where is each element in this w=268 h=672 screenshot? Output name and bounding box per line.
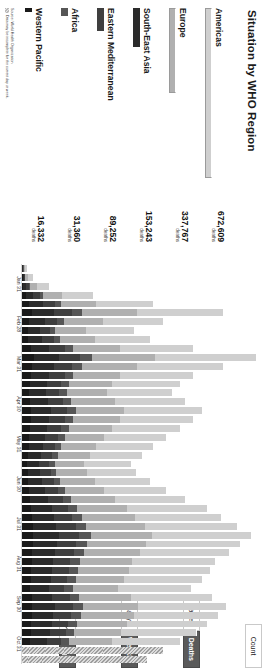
- timeseries-bar[interactable]: [22, 345, 193, 352]
- timeseries-bar[interactable]: [22, 638, 180, 645]
- timeseries-bar[interactable]: [22, 656, 147, 663]
- bar-segment: [29, 487, 46, 494]
- bar-segment: [54, 309, 73, 316]
- timeseries-bar[interactable]: [22, 558, 215, 565]
- timeseries-bar[interactable]: [22, 265, 27, 272]
- timeseries-bar[interactable]: [22, 398, 185, 405]
- bar-segment: [124, 576, 202, 583]
- bar-segment: [52, 567, 70, 574]
- timeseries-bar[interactable]: [22, 505, 207, 512]
- bar-segment: [38, 283, 51, 290]
- bar-segment: [45, 318, 59, 325]
- bar-segment: [30, 638, 48, 645]
- timeseries-bar[interactable]: [22, 594, 212, 601]
- timeseries-bar[interactable]: [22, 523, 237, 530]
- incomplete-data-note: Data may be incomplete for the current d…: [4, 8, 10, 158]
- bar-segment: [53, 612, 72, 619]
- bar-segment: [78, 505, 129, 512]
- timeseries-bar[interactable]: [22, 541, 240, 548]
- bar-segment: [74, 629, 122, 636]
- bar-segment: [78, 567, 130, 574]
- bar-segment: [96, 301, 153, 308]
- timeseries-bar[interactable]: [22, 621, 207, 628]
- timeseries-bar[interactable]: [22, 354, 256, 361]
- bar-segment: [95, 478, 151, 485]
- region-bar-track: [61, 8, 68, 178]
- timeseries-bar[interactable]: [22, 301, 153, 308]
- timeseries-bar[interactable]: [22, 452, 142, 459]
- timeseries-bar[interactable]: [22, 372, 193, 379]
- bar-segment: [73, 585, 120, 592]
- bar-segment: [48, 398, 64, 405]
- bar-segment: [32, 549, 56, 556]
- bar-segment: [56, 523, 76, 530]
- bar-segment: [146, 541, 241, 548]
- hatch-swatch-icon: [6, 8, 10, 13]
- axis-tick-label: Apr 30: [16, 396, 22, 411]
- bar-segment: [45, 487, 59, 494]
- bar-segment: [54, 514, 73, 521]
- bar-segment: [67, 389, 108, 396]
- bar-segment: [73, 345, 120, 352]
- region-bar: [25, 8, 32, 12]
- timeseries-bar[interactable]: [22, 416, 193, 423]
- region-row-americas: Americas 672,609 deaths: [194, 8, 224, 244]
- bar-segment: [47, 425, 62, 432]
- bar-segment: [32, 363, 55, 370]
- timeseries-bar[interactable]: [22, 532, 251, 539]
- timeseries-bar[interactable]: [22, 336, 150, 343]
- timeseries-bar[interactable]: [22, 478, 150, 485]
- timeseries-bar[interactable]: [22, 647, 163, 654]
- bar-segment: [59, 532, 81, 539]
- bar-segment: [29, 301, 44, 308]
- axis-tick-label: Mar 31: [16, 356, 22, 372]
- bar-segment: [61, 443, 97, 450]
- timeseries-bar[interactable]: [22, 434, 166, 441]
- bar-segment: [59, 354, 81, 361]
- region-row-europe: Europe 337,767 deaths: [158, 8, 188, 244]
- timeseries-bar[interactable]: [22, 567, 210, 574]
- timeseries-bar[interactable]: [22, 309, 223, 316]
- timeseries-bar[interactable]: [22, 407, 202, 414]
- bar-segment: [31, 621, 52, 628]
- timeseries-bar[interactable]: [22, 274, 33, 281]
- bar-segment: [127, 621, 208, 628]
- timeseries-bar[interactable]: [22, 443, 153, 450]
- timeseries-bar[interactable]: [22, 363, 223, 370]
- timeseries-bar[interactable]: [22, 629, 196, 636]
- timeseries-bar[interactable]: [22, 425, 180, 432]
- timeseries-bar[interactable]: [22, 549, 229, 556]
- timeseries-bar[interactable]: [22, 487, 166, 494]
- bar-segment: [46, 389, 60, 396]
- region-label: Western Pacific: [34, 8, 44, 72]
- timeseries-bar[interactable]: [22, 461, 131, 468]
- region-row-south-east-asia: South-East Asia 153,243 deaths: [122, 8, 152, 244]
- bar-segment: [80, 558, 133, 565]
- timeseries-bar[interactable]: [22, 327, 134, 334]
- bar-segment: [28, 336, 43, 343]
- bar-segment: [104, 487, 167, 494]
- timeseries-bar[interactable]: [22, 318, 163, 325]
- timeseries-bar[interactable]: [22, 381, 180, 388]
- timeseries-bar[interactable]: [22, 292, 93, 299]
- bar-segment: [69, 638, 113, 645]
- bar-segment: [25, 265, 28, 272]
- bar-segment: [112, 638, 181, 645]
- timeseries-bar[interactable]: [22, 389, 172, 396]
- bar-segment: [81, 612, 135, 619]
- region-bar: [97, 8, 104, 31]
- bar-segment: [87, 541, 147, 548]
- timeseries-bar[interactable]: [22, 283, 49, 290]
- bar-segment: [31, 407, 52, 414]
- timeseries-bar[interactable]: [22, 585, 191, 592]
- bar-segment: [48, 496, 64, 503]
- timeseries-bar[interactable]: [22, 514, 221, 521]
- timeseries-bar[interactable]: [22, 496, 185, 503]
- timeseries-bar[interactable]: [22, 603, 226, 610]
- source-line: Source: World Health Organization: [10, 8, 15, 158]
- axis-tick-label: Jan 31: [16, 276, 22, 292]
- bar-segment: [28, 656, 43, 663]
- timeseries-bar[interactable]: [22, 469, 136, 476]
- timeseries-bar[interactable]: [22, 612, 218, 619]
- timeseries-bar[interactable]: [22, 576, 202, 583]
